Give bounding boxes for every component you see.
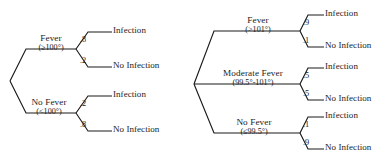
right-prob-fever-no-infection: .1 [303,37,309,45]
branch-range: (≤99.5°) [222,128,286,136]
branch-name: Moderate Fever [209,69,297,78]
branch-range: (99.5°-101°) [209,79,297,87]
right-branch-label-moderate-fever: Moderate Fever (99.5°-101°) [209,69,297,87]
right-tree-edges [0,0,379,162]
right-prob-no-fever-no-infection: .9 [303,139,309,147]
right-prob-moderate-no-infection: .5 [303,90,309,98]
right-leaf-no-fever-infection: Infection [325,111,358,120]
right-branch-label-fever: Fever (>101°) [229,16,287,34]
right-prob-moderate-infection: .5 [303,72,309,80]
right-leaf-no-fever-no-infection: No Infection [325,143,371,152]
branch-name: Fever [229,16,287,25]
right-leaf-moderate-no-infection: No Infection [325,94,371,103]
branch-name: No Fever [222,118,286,127]
diagram-canvas: Fever (≥100°) No Fever (<100°) .8 .2 .2 … [0,0,379,162]
right-leaf-moderate-infection: Infection [325,62,358,71]
right-leaf-fever-infection: Infection [325,9,358,18]
right-branch-label-no-fever: No Fever (≤99.5°) [222,118,286,136]
right-leaf-fever-no-infection: No Infection [325,41,371,50]
branch-range: (>101°) [229,26,287,34]
right-prob-no-fever-infection: .1 [303,121,309,129]
right-prob-fever-infection: .9 [303,19,309,27]
